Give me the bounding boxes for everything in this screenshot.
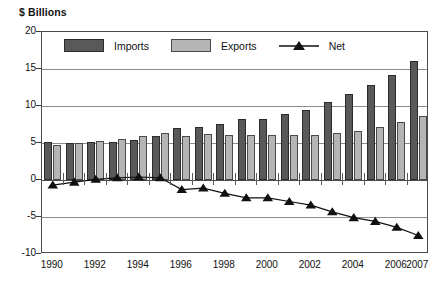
net-marker-2000 bbox=[263, 193, 274, 201]
x-axis-tick-label: 1992 bbox=[84, 259, 106, 270]
bar-exports-1998 bbox=[225, 135, 233, 180]
bar-imports-2001 bbox=[281, 114, 289, 180]
bar-exports-2007 bbox=[419, 116, 427, 180]
bar-exports-2000 bbox=[268, 135, 276, 180]
legend-label-exports: Exports bbox=[221, 40, 257, 52]
legend-label-imports: Imports bbox=[114, 40, 149, 52]
net-marker-2003 bbox=[327, 207, 338, 215]
x-axis-tick-mark bbox=[213, 173, 214, 185]
bar-exports-1994 bbox=[139, 136, 147, 180]
legend-label-net: Net bbox=[329, 40, 345, 52]
bar-exports-1995 bbox=[161, 133, 169, 180]
y-axis-tick-label: 5 bbox=[0, 137, 36, 147]
bar-imports-2004 bbox=[345, 94, 353, 180]
chart-legend: Imports Exports Net bbox=[64, 39, 367, 52]
bar-imports-1997 bbox=[195, 127, 203, 180]
y-axis-tick-mark bbox=[36, 253, 41, 254]
bar-exports-1996 bbox=[182, 136, 190, 180]
x-axis-tick-mark bbox=[63, 173, 64, 185]
net-marker-1999 bbox=[241, 193, 252, 201]
bar-imports-2007 bbox=[410, 61, 418, 180]
y-axis-tick-label: 15 bbox=[0, 63, 36, 73]
y-axis-tick-label: -10 bbox=[0, 248, 36, 258]
bar-imports-2002 bbox=[302, 110, 310, 180]
y-axis-tick-label: 10 bbox=[0, 100, 36, 110]
net-marker-2001 bbox=[284, 197, 295, 205]
x-axis-tick-mark bbox=[278, 173, 279, 185]
bar-exports-1990 bbox=[53, 145, 61, 180]
bar-exports-1997 bbox=[204, 134, 212, 180]
bar-imports-2006 bbox=[388, 75, 396, 180]
gridline bbox=[42, 217, 427, 218]
bar-imports-1991 bbox=[66, 143, 74, 180]
y-axis-tick-label: -5 bbox=[0, 211, 36, 221]
bar-exports-2003 bbox=[333, 133, 341, 180]
bar-exports-1991 bbox=[75, 143, 83, 180]
x-axis-tick-label: 2006 bbox=[385, 259, 407, 270]
net-marker-2005 bbox=[370, 217, 381, 225]
x-axis-tick-label: 2004 bbox=[342, 259, 364, 270]
bar-imports-2003 bbox=[324, 102, 332, 180]
x-axis-tick-label: 2007 bbox=[406, 259, 428, 270]
x-axis-tick-label: 1996 bbox=[170, 259, 192, 270]
x-axis-tick-mark bbox=[364, 173, 365, 185]
net-marker-1996 bbox=[177, 185, 188, 193]
plot-area bbox=[41, 31, 428, 253]
x-axis-tick-mark bbox=[84, 173, 85, 185]
bar-imports-1994 bbox=[130, 140, 138, 180]
net-marker-2006 bbox=[392, 223, 403, 231]
x-axis-tick-mark bbox=[299, 173, 300, 185]
bar-exports-2002 bbox=[311, 135, 319, 180]
y-axis-tick-label: 20 bbox=[0, 26, 36, 36]
x-axis-tick-mark bbox=[149, 173, 150, 185]
gridline bbox=[42, 69, 427, 70]
x-axis-tick-mark bbox=[385, 173, 386, 185]
bar-exports-2006 bbox=[397, 122, 405, 180]
x-axis-tick-mark bbox=[192, 173, 193, 185]
x-axis-tick-mark bbox=[321, 173, 322, 185]
bar-exports-2004 bbox=[354, 131, 362, 180]
net-polyline bbox=[53, 177, 419, 236]
bar-imports-1998 bbox=[216, 124, 224, 180]
x-axis-tick-label: 1994 bbox=[127, 259, 149, 270]
bar-imports-1996 bbox=[173, 128, 181, 180]
x-axis-tick-mark bbox=[106, 173, 107, 185]
legend-swatch-exports bbox=[171, 39, 211, 52]
chart-axis-title: $ Billions bbox=[19, 6, 67, 18]
bar-exports-1999 bbox=[247, 135, 255, 180]
x-axis-tick-mark bbox=[127, 173, 128, 185]
x-axis-tick-mark bbox=[342, 173, 343, 185]
net-marker-1990 bbox=[48, 181, 59, 189]
bar-imports-2000 bbox=[259, 119, 267, 180]
x-axis-tick-mark bbox=[170, 173, 171, 185]
net-marker-1998 bbox=[220, 189, 231, 197]
net-marker-2002 bbox=[306, 201, 317, 209]
net-marker-2007 bbox=[413, 231, 424, 239]
bar-exports-1992 bbox=[96, 141, 104, 180]
bar-imports-1995 bbox=[152, 136, 160, 180]
bar-imports-1999 bbox=[238, 119, 246, 180]
x-axis-tick-label: 2000 bbox=[256, 259, 278, 270]
x-axis-tick-label: 1998 bbox=[213, 259, 235, 270]
x-axis-tick-mark bbox=[235, 173, 236, 185]
x-axis-tick-mark bbox=[256, 173, 257, 185]
bar-imports-1993 bbox=[109, 142, 117, 180]
legend-net-icon bbox=[279, 39, 319, 52]
bar-imports-1992 bbox=[87, 142, 95, 180]
bar-exports-1993 bbox=[118, 139, 126, 180]
bar-exports-2001 bbox=[290, 135, 298, 180]
bar-exports-2005 bbox=[376, 127, 384, 180]
legend-swatch-net bbox=[279, 39, 319, 52]
bar-imports-1990 bbox=[44, 142, 52, 180]
x-axis-tick-label: 1990 bbox=[41, 259, 63, 270]
x-axis-tick-mark bbox=[407, 173, 408, 185]
chart-container: $ Billions 20151050-5-10 199019921994199… bbox=[0, 0, 438, 284]
bar-imports-2005 bbox=[367, 85, 375, 180]
y-axis-tick-label: 0 bbox=[0, 174, 36, 184]
x-axis-tick-label: 2002 bbox=[299, 259, 321, 270]
net-marker-1997 bbox=[198, 184, 209, 192]
legend-swatch-imports bbox=[64, 39, 104, 52]
